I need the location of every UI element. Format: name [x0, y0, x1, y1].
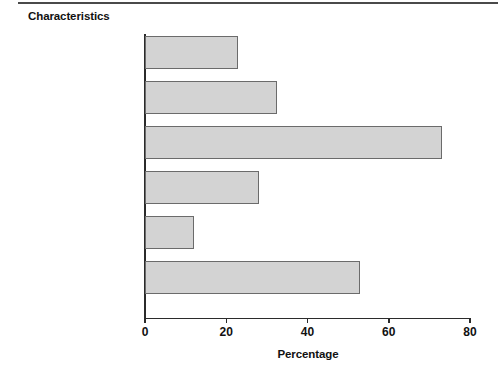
- bar-rect: [145, 216, 194, 249]
- bar-rect: [145, 126, 442, 159]
- x-axis-tick: [469, 318, 471, 323]
- bar-rect: [145, 171, 259, 204]
- x-axis-tick-label: 20: [206, 325, 246, 339]
- x-axis-tick-label: 0: [125, 325, 165, 339]
- bar-chart-figure: Characteristics Age 41 or moreAge 30 or …: [0, 0, 498, 376]
- x-axis-tick: [226, 318, 228, 323]
- x-axis-title: Percentage: [145, 348, 471, 360]
- x-axis-tick: [144, 318, 146, 323]
- x-axis-tick: [388, 318, 390, 323]
- bar-rect: [145, 81, 277, 114]
- x-axis-tick: [307, 318, 309, 323]
- x-axis-tick-label: 80: [450, 325, 490, 339]
- x-axis-tick-label: 60: [369, 325, 409, 339]
- bar-rect: [145, 36, 238, 69]
- bar-rect: [145, 261, 360, 294]
- plot-area: Age 41 or moreAge 30 or underCollege, so…: [0, 0, 498, 376]
- x-axis-tick-label: 40: [288, 325, 328, 339]
